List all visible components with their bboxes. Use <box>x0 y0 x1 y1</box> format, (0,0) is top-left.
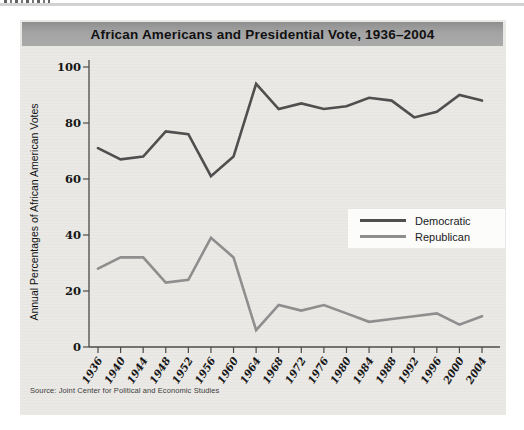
x-tick-label: 1960 <box>215 354 241 386</box>
y-tick-label: 80 <box>65 116 81 130</box>
x-tick-label: 1988 <box>373 354 399 386</box>
x-tick-label: 1996 <box>418 354 444 386</box>
x-tick-label: 1944 <box>124 355 150 386</box>
x-tick-label: 1948 <box>147 354 173 386</box>
legend-label-republican: Republican <box>415 231 470 243</box>
page: African Americans and Presidential Vote,… <box>0 0 524 430</box>
x-tick-label: 1956 <box>192 354 218 386</box>
y-axis: 020406080100Annual Percentages of Africa… <box>28 60 89 354</box>
republican-line-swatch <box>360 235 406 238</box>
x-tick-label: 1984 <box>350 355 376 386</box>
legend-label-democratic: Democratic <box>415 215 471 227</box>
y-tick-label: 40 <box>65 228 81 242</box>
figure-container: African Americans and Presidential Vote,… <box>20 20 506 415</box>
legend-item-republican: Republican <box>360 231 505 243</box>
democratic-line <box>98 84 482 176</box>
x-tick-label: 1952 <box>169 355 195 386</box>
y-tick-label: 20 <box>65 284 81 298</box>
x-tick-label: 1972 <box>282 355 308 386</box>
democratic-line-swatch <box>360 219 406 222</box>
x-tick-label: 1964 <box>237 355 263 386</box>
x-tick-label: 1936 <box>79 354 105 386</box>
x-tick-label: 1976 <box>305 354 331 386</box>
source-note: Source: Joint Center for Political and E… <box>30 386 219 395</box>
x-tick-label: 1940 <box>102 354 128 386</box>
chart-legend: Democratic Republican <box>348 209 505 248</box>
y-tick-label: 0 <box>73 340 81 354</box>
y-axis-title: Annual Percentages of African American V… <box>28 103 40 320</box>
x-tick-label: 2004 <box>462 355 488 387</box>
x-tick-label: 1968 <box>260 354 286 386</box>
x-tick-label: 1992 <box>395 355 421 386</box>
x-axis: 1936194019441948195219561960196419681972… <box>79 347 500 387</box>
legend-item-democratic: Democratic <box>360 215 505 227</box>
y-tick-label: 60 <box>65 172 81 186</box>
republican-line <box>98 238 482 330</box>
y-tick-label: 100 <box>57 60 81 74</box>
x-tick-label: 1980 <box>327 354 353 386</box>
x-tick-label: 2000 <box>440 354 467 387</box>
page-top-rule <box>0 3 524 6</box>
